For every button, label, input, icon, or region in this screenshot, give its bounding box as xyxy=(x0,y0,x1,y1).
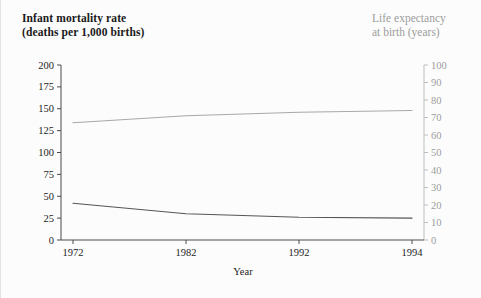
right-axis-tick-label: 30 xyxy=(431,182,442,193)
series-group xyxy=(73,111,412,219)
right-axis-tick-label: 70 xyxy=(431,112,442,123)
x-axis-tick-label: 1972 xyxy=(63,247,84,258)
figure-canvas: Infant mortality rate (deaths per 1,000 … xyxy=(0,0,481,298)
x-axis-tick-label: 1982 xyxy=(176,247,197,258)
right-axis-tick-label: 50 xyxy=(431,147,442,158)
left-axis-tick-label: 0 xyxy=(49,235,54,246)
left-axis-tick-label: 75 xyxy=(44,169,55,180)
x-axis-tick-label: 1992 xyxy=(289,247,310,258)
x-axis-group: 1972198219921994 xyxy=(61,240,424,258)
line-chart-plot: 0255075100125150175200 01020304050607080… xyxy=(0,0,481,298)
x-axis-title: Year xyxy=(233,266,253,277)
left-axis-tick-label: 50 xyxy=(44,191,55,202)
left-axis-tick-label: 125 xyxy=(38,125,54,136)
right-axis-tick-label: 60 xyxy=(431,130,442,141)
right-axis-tick-label: 10 xyxy=(431,217,442,228)
left-axis-tick-label: 200 xyxy=(38,60,54,71)
right-axis-tick-label: 40 xyxy=(431,165,442,176)
right-axis-tick-label: 80 xyxy=(431,95,442,106)
right-axis-group: 0102030405060708090100 xyxy=(424,60,447,246)
right-axis-tick-label: 0 xyxy=(431,235,436,246)
right-axis-tick-label: 20 xyxy=(431,200,442,211)
left-axis-tick-label: 150 xyxy=(38,103,54,114)
left-axis-tick-label: 175 xyxy=(38,81,54,92)
right-axis-tick-label: 90 xyxy=(431,77,442,88)
series-line-infant-mortality xyxy=(73,203,412,218)
left-axis-group: 0255075100125150175200 xyxy=(38,60,61,246)
series-line-life-expectancy xyxy=(73,111,412,123)
left-axis-tick-label: 100 xyxy=(38,147,54,158)
right-axis-tick-label: 100 xyxy=(431,60,447,71)
left-axis-tick-label: 25 xyxy=(44,213,55,224)
x-axis-tick-label: 1994 xyxy=(402,247,424,258)
